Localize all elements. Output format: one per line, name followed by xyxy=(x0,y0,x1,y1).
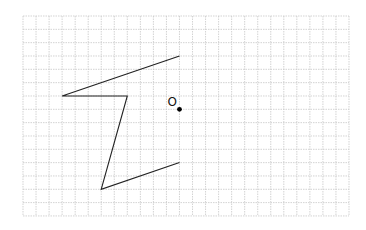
point-label-o: O xyxy=(167,95,176,109)
grid-diagram: O xyxy=(0,0,366,230)
square-grid xyxy=(23,16,349,216)
center-point-o xyxy=(177,107,182,112)
